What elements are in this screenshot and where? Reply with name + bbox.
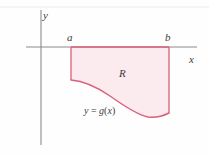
- function-label: y = g(x): [84, 106, 115, 116]
- lower-bound-label-a: a: [67, 32, 73, 43]
- math-figure: y x a b R y = g(x): [0, 0, 209, 154]
- function-label-equals: =: [88, 105, 99, 116]
- figure-canvas: [0, 0, 209, 154]
- region-label-R: R: [119, 68, 126, 79]
- upper-bound-label-b: b: [165, 32, 171, 43]
- x-axis-label: x: [189, 54, 194, 65]
- y-axis-label: y: [43, 10, 48, 21]
- function-label-close-paren: ): [112, 105, 115, 116]
